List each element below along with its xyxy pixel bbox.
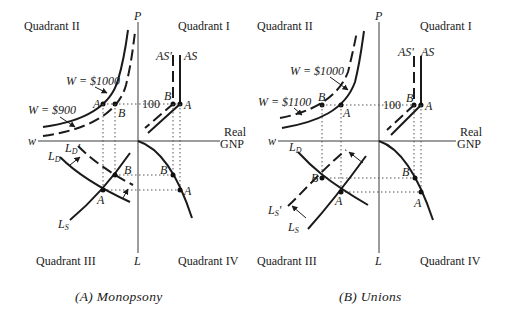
quadrant-ii-label: Quadrant II bbox=[24, 19, 80, 33]
l-axis-label: L bbox=[374, 254, 382, 268]
point-a-q3 bbox=[101, 188, 106, 193]
quadrant-iv-label: Quadrant IV bbox=[178, 254, 239, 268]
real-gnp-label-line2: GNP bbox=[457, 137, 481, 151]
as-label: AS bbox=[420, 45, 434, 59]
point-b-q4-label: B bbox=[160, 163, 168, 177]
wage-label-1100: W = $1100 bbox=[258, 95, 311, 109]
as-prime-label: AS' bbox=[155, 49, 172, 63]
point-a-q1-label: A bbox=[183, 98, 192, 112]
point-b-q1-label: B bbox=[406, 91, 414, 105]
ld-prime-label: LD' bbox=[64, 141, 80, 156]
caption-unions: (B) Unions bbox=[339, 289, 402, 304]
p-axis-label: P bbox=[374, 9, 383, 23]
ls-shift-arrow-upper bbox=[349, 152, 363, 163]
point-b-q4 bbox=[413, 176, 418, 181]
four-quadrant-diagram: Quadrant II Quadrant I Quadrant III Quad… bbox=[0, 0, 508, 323]
price-100-label: 100 bbox=[142, 97, 160, 111]
point-b-q3 bbox=[113, 173, 118, 178]
wage-curve-1000 bbox=[282, 31, 364, 128]
point-b-q1-label: B bbox=[164, 89, 172, 103]
point-a-q3-label: A bbox=[96, 193, 105, 207]
ld-shift-arrow-upper bbox=[70, 157, 80, 165]
production-function-curve bbox=[138, 141, 192, 218]
production-function-curve bbox=[379, 141, 433, 220]
point-b-q4-label: B bbox=[402, 165, 410, 179]
point-a-q3-label: A bbox=[334, 194, 343, 208]
quadrant-iii-label: Quadrant III bbox=[257, 254, 317, 268]
point-b-q3-label: B bbox=[311, 171, 319, 185]
l-axis-label: L bbox=[133, 254, 141, 268]
quadrant-iv-label: Quadrant IV bbox=[420, 254, 481, 268]
point-b-q2-label: B bbox=[118, 106, 126, 120]
point-b-q2-label: B bbox=[318, 90, 326, 104]
caption-monopsony: (A) Monopsony bbox=[75, 289, 163, 304]
quadrant-i-label: Quadrant I bbox=[178, 19, 230, 33]
ls-label: LS bbox=[287, 220, 299, 235]
w-axis-label: w bbox=[28, 134, 36, 148]
point-a-q1-label: A bbox=[424, 99, 433, 113]
as-prime-label: AS' bbox=[397, 45, 414, 59]
point-a-q4 bbox=[178, 188, 183, 193]
wage-label-1000: W = $1000 bbox=[290, 64, 344, 78]
ld-label: LD bbox=[288, 140, 302, 155]
point-a-q2-label: A bbox=[92, 97, 101, 111]
ld-label: LD bbox=[47, 149, 61, 164]
panel-b-unions: Quadrant II Quadrant I Quadrant III Quad… bbox=[257, 9, 483, 304]
quadrant-i-label: Quadrant I bbox=[420, 19, 472, 33]
wage-label-1000: W = $1000 bbox=[66, 74, 120, 88]
ls-prime-label: LS' bbox=[267, 203, 282, 218]
point-a-q4-label: A bbox=[413, 196, 422, 210]
point-b-q3-label: B bbox=[124, 163, 132, 177]
price-100-label: 100 bbox=[383, 98, 401, 112]
point-a-q2-label: A bbox=[342, 106, 351, 120]
quadrant-iii-label: Quadrant III bbox=[36, 254, 96, 268]
quadrant-ii-label: Quadrant II bbox=[257, 19, 313, 33]
as-label: AS bbox=[183, 49, 197, 63]
point-b-q3 bbox=[320, 176, 325, 181]
point-a-q4 bbox=[419, 190, 424, 195]
point-a-q4-label: A bbox=[183, 184, 192, 198]
ls-label: LS bbox=[57, 217, 69, 232]
labor-demand-curve bbox=[298, 152, 368, 205]
point-b-q4 bbox=[171, 173, 176, 178]
panel-a-monopsony: Quadrant II Quadrant I Quadrant III Quad… bbox=[24, 9, 247, 304]
wage-label-900: W = $900 bbox=[28, 103, 76, 117]
p-axis-label: P bbox=[133, 9, 142, 23]
wage-900-pointer-arrow bbox=[60, 117, 75, 127]
ls-shift-arrow-lower bbox=[292, 206, 306, 218]
real-gnp-label-line2: GNP bbox=[220, 137, 244, 151]
w-axis-label: w bbox=[268, 134, 276, 148]
